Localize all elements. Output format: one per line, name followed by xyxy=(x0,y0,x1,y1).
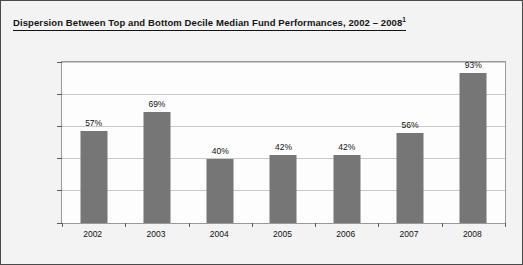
bar-value-label: 40% xyxy=(212,146,229,156)
bar[interactable] xyxy=(270,155,297,223)
bar-value-label: 56% xyxy=(402,120,419,130)
plot-area: 57%69%40%42%42%56%93% xyxy=(61,61,506,224)
bar-value-label: 42% xyxy=(338,142,355,152)
bar-value-label: 57% xyxy=(85,118,102,128)
chart-title-block: Dispersion Between Top and Bottom Decile… xyxy=(13,12,406,31)
bar[interactable] xyxy=(143,112,170,223)
bar-slot: 42% xyxy=(252,62,315,223)
page-title: Dispersion Between Top and Bottom Decile… xyxy=(13,17,406,31)
x-axis-tick-mark xyxy=(125,223,126,227)
x-axis-tick-label: 2004 xyxy=(210,229,229,239)
bar[interactable] xyxy=(207,159,234,223)
x-axis-tick-label: 2008 xyxy=(463,229,482,239)
x-axis-tick-mark xyxy=(189,223,190,227)
bar-slot: 69% xyxy=(125,62,188,223)
x-axis-tick-mark xyxy=(378,223,379,227)
bar-slot: 42% xyxy=(315,62,378,223)
bar[interactable] xyxy=(460,73,487,223)
x-axis-tick-mark xyxy=(505,223,506,227)
bar-slot: 57% xyxy=(62,62,125,223)
bar[interactable] xyxy=(397,133,424,223)
x-axis-tick-mark xyxy=(252,223,253,227)
chart-figure: Dispersion Between Top and Bottom Decile… xyxy=(0,0,523,265)
bar[interactable] xyxy=(80,131,107,223)
bar-slot: 40% xyxy=(189,62,252,223)
x-axis-tick-label: 2005 xyxy=(273,229,292,239)
chart-title-text: Dispersion Between Top and Bottom Decile… xyxy=(13,17,402,28)
bar-value-label: 69% xyxy=(148,99,165,109)
bar-slot: 93% xyxy=(442,62,505,223)
x-axis-tick-mark xyxy=(442,223,443,227)
x-axis-tick-label: 2003 xyxy=(146,229,165,239)
x-axis-tick-label: 2006 xyxy=(336,229,355,239)
bar-value-label: 42% xyxy=(275,142,292,152)
chart-title-footnote-marker: 1 xyxy=(402,16,406,23)
x-axis-tick-mark xyxy=(62,223,63,227)
x-axis-tick-label: 2002 xyxy=(83,229,102,239)
bar-value-label: 93% xyxy=(465,60,482,70)
bar-slot: 56% xyxy=(378,62,441,223)
x-axis-tick-mark xyxy=(315,223,316,227)
bar[interactable] xyxy=(333,155,360,223)
x-axis-tick-label: 2007 xyxy=(400,229,419,239)
